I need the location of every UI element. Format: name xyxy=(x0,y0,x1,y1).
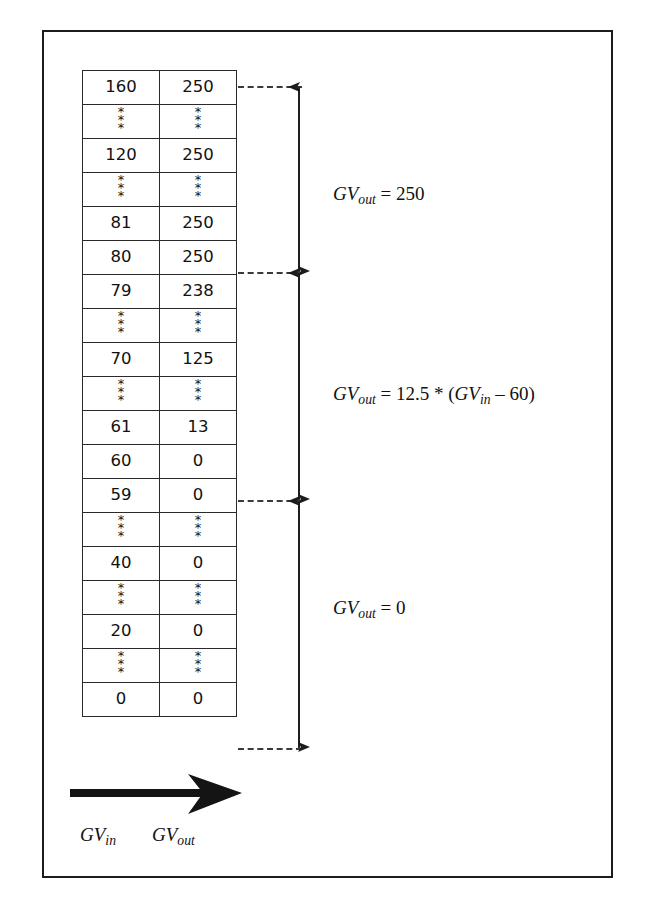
asterisk-glyph: * xyxy=(195,532,202,540)
annotation-mid-factor: 12.5 xyxy=(396,383,429,404)
table-cell-ellipsis-out: *** xyxy=(160,105,237,139)
asterisk-glyph: * xyxy=(195,396,202,404)
table-cell-in: 80 xyxy=(83,241,160,275)
annotation-mid-inner-symbol: GV xyxy=(455,383,480,404)
vertical-ellipsis-icon: *** xyxy=(195,176,202,200)
table-cell-out: 0 xyxy=(160,445,237,479)
table-cell-out: 0 xyxy=(160,683,237,717)
annotation-high-symbol: GV xyxy=(333,183,358,204)
table-cell-out: 125 xyxy=(160,343,237,377)
asterisk-glyph: * xyxy=(118,328,125,336)
annotation-mid-symbol: GV xyxy=(333,383,358,404)
table-row: ****** xyxy=(83,105,237,139)
table-cell-ellipsis-out: *** xyxy=(160,581,237,615)
vertical-ellipsis-icon: *** xyxy=(195,584,202,608)
annotation-high-value: 250 xyxy=(396,183,425,204)
vertical-ellipsis-icon: *** xyxy=(118,108,125,132)
annotation-low-value: 0 xyxy=(396,597,406,618)
table-cell-ellipsis-out: *** xyxy=(160,513,237,547)
axis-label-input-subscript: in xyxy=(105,833,116,848)
table-cell-in: 81 xyxy=(83,207,160,241)
table-cell-ellipsis-out: *** xyxy=(160,173,237,207)
asterisk-glyph: * xyxy=(118,532,125,540)
annotation-low-range: GVout = 0 xyxy=(333,597,406,622)
table-row: ****** xyxy=(83,513,237,547)
table-cell-in: 61 xyxy=(83,411,160,445)
table-row: 590 xyxy=(83,479,237,513)
table-row: ****** xyxy=(83,649,237,683)
table-cell-ellipsis-in: *** xyxy=(83,649,160,683)
axis-label-input-symbol: GV xyxy=(80,824,105,845)
asterisk-glyph: * xyxy=(195,328,202,336)
table-cell-in: 60 xyxy=(83,445,160,479)
vertical-ellipsis-icon: *** xyxy=(195,312,202,336)
annotation-low-subscript: out xyxy=(358,606,375,621)
annotation-high-range: GVout = 250 xyxy=(333,183,425,208)
lookup-table: 160250******120250******812508025079238*… xyxy=(82,70,237,717)
table-row: 6113 xyxy=(83,411,237,445)
table-cell-ellipsis-in: *** xyxy=(83,309,160,343)
table-row: 400 xyxy=(83,547,237,581)
table-row: 70125 xyxy=(83,343,237,377)
table-cell-in: 40 xyxy=(83,547,160,581)
table-cell-ellipsis-in: *** xyxy=(83,581,160,615)
vertical-ellipsis-icon: *** xyxy=(118,380,125,404)
annotation-mid-range: GVout = 12.5 * (GVin – 60) xyxy=(333,383,535,408)
table-row: 600 xyxy=(83,445,237,479)
table-row: 00 xyxy=(83,683,237,717)
table-row: ****** xyxy=(83,581,237,615)
annotation-mid-minus: – xyxy=(495,383,505,404)
table-cell-in: 120 xyxy=(83,139,160,173)
vertical-ellipsis-icon: *** xyxy=(118,516,125,540)
asterisk-glyph: * xyxy=(195,124,202,132)
vertical-ellipsis-icon: *** xyxy=(118,652,125,676)
vertical-ellipsis-icon: *** xyxy=(195,108,202,132)
range-arrow-group xyxy=(278,60,322,780)
flow-direction-arrow-icon xyxy=(66,772,246,818)
table-cell-out: 0 xyxy=(160,615,237,649)
vertical-ellipsis-icon: *** xyxy=(195,380,202,404)
table-cell-ellipsis-in: *** xyxy=(83,173,160,207)
figure-canvas: 160250******120250******812508025079238*… xyxy=(0,0,647,907)
table-cell-out: 0 xyxy=(160,479,237,513)
axis-label-output-subscript: out xyxy=(177,833,194,848)
annotation-low-equals: = xyxy=(381,597,392,618)
annotation-mid-subscript: out xyxy=(358,392,375,407)
table-cell-in: 79 xyxy=(83,275,160,309)
table-cell-in: 0 xyxy=(83,683,160,717)
table-cell-out: 250 xyxy=(160,207,237,241)
table-cell-in: 59 xyxy=(83,479,160,513)
asterisk-glyph: * xyxy=(118,192,125,200)
table-cell-in: 20 xyxy=(83,615,160,649)
lookup-table-body: 160250******120250******812508025079238*… xyxy=(83,71,237,717)
annotation-low-symbol: GV xyxy=(333,597,358,618)
axis-label-output: GVout xyxy=(152,824,195,849)
table-cell-out: 238 xyxy=(160,275,237,309)
table-cell-out: 250 xyxy=(160,139,237,173)
table-row: 200 xyxy=(83,615,237,649)
table-cell-out: 13 xyxy=(160,411,237,445)
vertical-ellipsis-icon: *** xyxy=(118,312,125,336)
asterisk-glyph: * xyxy=(118,124,125,132)
vertical-ellipsis-icon: *** xyxy=(195,652,202,676)
table-cell-in: 70 xyxy=(83,343,160,377)
axis-label-input: GVin xyxy=(80,824,116,849)
annotation-mid-offset: 60 xyxy=(510,383,529,404)
table-row: 79238 xyxy=(83,275,237,309)
table-cell-ellipsis-in: *** xyxy=(83,377,160,411)
table-cell-ellipsis-out: *** xyxy=(160,309,237,343)
asterisk-glyph: * xyxy=(195,192,202,200)
table-cell-out: 250 xyxy=(160,241,237,275)
table-row: ****** xyxy=(83,377,237,411)
vertical-ellipsis-icon: *** xyxy=(195,516,202,540)
annotation-high-subscript: out xyxy=(358,192,375,207)
table-cell-ellipsis-in: *** xyxy=(83,105,160,139)
annotation-high-equals: = xyxy=(381,183,392,204)
table-row: ****** xyxy=(83,173,237,207)
axis-label-output-symbol: GV xyxy=(152,824,177,845)
asterisk-glyph: * xyxy=(118,600,125,608)
table-row: 80250 xyxy=(83,241,237,275)
annotation-mid-operator: * xyxy=(434,383,444,404)
table-row: 160250 xyxy=(83,71,237,105)
annotation-mid-close-paren: ) xyxy=(529,383,535,404)
